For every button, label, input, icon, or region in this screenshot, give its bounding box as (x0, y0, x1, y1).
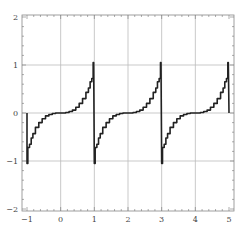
y-tick-labels: −2−1012 (6, 13, 18, 214)
y-tick-label: 2 (13, 13, 18, 22)
y-tick-label: −1 (6, 157, 18, 166)
x-tick-label: 3 (159, 215, 164, 224)
y-tick-label: 1 (13, 61, 18, 70)
x-tick-label: 2 (125, 215, 130, 224)
x-tick-label: 1 (92, 215, 97, 224)
y-tick-label: 0 (13, 109, 18, 118)
x-tick-label: −1 (21, 215, 33, 224)
y-tick-label: −2 (6, 205, 18, 214)
x-tick-label: 0 (58, 215, 63, 224)
x-tick-labels: −1012345 (21, 215, 231, 224)
x-tick-label: 5 (226, 215, 231, 224)
chart: −1012345 −2−1012 (0, 0, 247, 235)
x-tick-label: 4 (193, 215, 198, 224)
